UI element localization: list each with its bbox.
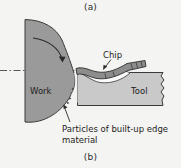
chip-leader-arrow-icon [103, 60, 111, 71]
workpiece-body [25, 20, 75, 123]
chip-label: Chip [103, 50, 122, 60]
tool-label: Tool [131, 86, 148, 96]
figure-container: (a) [0, 0, 181, 168]
bue-leader-arrow-icon [63, 104, 70, 122]
built-up-edge-caption: Particles of built-up edge material [62, 124, 174, 146]
panel-label-b: (b) [0, 152, 181, 162]
work-label: Work [30, 86, 52, 96]
